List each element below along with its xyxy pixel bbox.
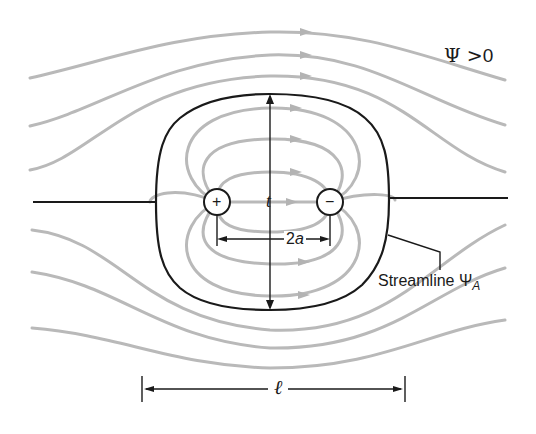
length-label: ℓ: [268, 377, 288, 397]
psi-relation: >: [467, 44, 483, 66]
flow-arrows: [286, 28, 312, 299]
psi-symbol: Ψ: [444, 44, 461, 66]
separation-var: a: [295, 230, 304, 247]
psi-value: 0: [483, 45, 494, 66]
separation-label: 2a: [284, 231, 306, 247]
sink-symbol: −: [325, 194, 334, 210]
separation-coeff: 2: [286, 230, 295, 247]
streamline-label: Streamline ΨA: [378, 273, 480, 289]
thickness-label: t: [266, 192, 271, 210]
psi-positive-label: Ψ >0: [444, 46, 493, 65]
source-symbol: +: [212, 194, 221, 210]
streamline-leader: [388, 235, 440, 270]
streamline-text: Streamline Ψ: [378, 272, 472, 289]
streamline-subscript: A: [472, 279, 480, 293]
inner-streamlines: [150, 108, 395, 296]
